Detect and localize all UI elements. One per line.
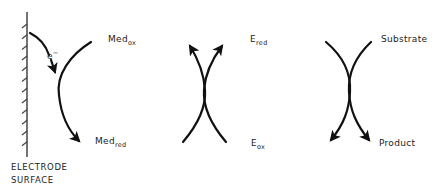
product-label: Product: [379, 138, 415, 148]
electrode-surface: [22, 12, 27, 157]
enzyme-left-arrow: [183, 46, 205, 142]
substrate-left-arrow: [326, 42, 350, 140]
electrode-caption-line2: SURFACE: [11, 175, 54, 185]
electron-transfer-arrow: [51, 60, 55, 72]
med-ox-label: Medox: [108, 34, 136, 47]
mediator-reduction-arrow: [59, 42, 91, 141]
electrode-caption-line1: ELECTRODE: [11, 162, 68, 172]
e-red-label: Ered: [250, 34, 268, 47]
mediated-electron-transfer-diagram: e− Medox Medred Ered Eox Substrate Produ…: [0, 0, 438, 188]
substrate-right-arrow: [349, 42, 371, 140]
e-ox-label: Eox: [251, 138, 265, 151]
enzyme-right-arrow: [204, 46, 226, 142]
electron-label: e−: [47, 49, 59, 61]
med-red-label: Medred: [95, 136, 126, 149]
substrate-label: Substrate: [381, 34, 427, 44]
